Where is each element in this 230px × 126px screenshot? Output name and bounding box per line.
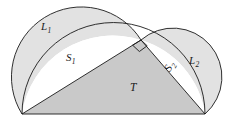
label-segment-S1: S1 [66, 52, 75, 63]
label-triangle-T: T [130, 82, 136, 94]
label-lune-L1: L1 [41, 21, 51, 32]
label-lune-L2: L2 [189, 55, 199, 66]
lunes-of-hippocrates-figure: L1 S1 T L2 S2 [0, 0, 230, 126]
